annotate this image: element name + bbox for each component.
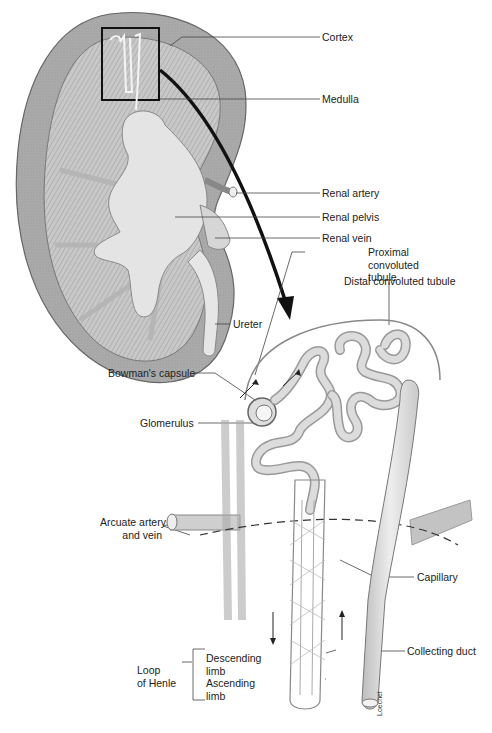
label-renal-vein: Renal vein [322, 232, 372, 245]
label-ascending-limb: Ascending limb [206, 677, 255, 702]
label-line: Arcuate artery [100, 516, 162, 529]
label-line: of Henle [137, 677, 176, 690]
label-renal-artery: Renal artery [322, 187, 379, 200]
label-distal-convoluted-tubule: Distal convoluted tubule [344, 275, 456, 288]
label-line: Proximal [368, 246, 419, 259]
loop-of-henle [290, 480, 325, 709]
label-line: Descending [206, 652, 261, 665]
label-renal-pelvis: Renal pelvis [322, 211, 379, 224]
label-line: convoluted [368, 259, 419, 272]
label-line: and vein [100, 529, 162, 542]
label-line: limb [206, 665, 261, 678]
label-cortex: Cortex [322, 31, 353, 44]
label-glomerulus: Glomerulus [140, 417, 194, 430]
label-arcuate-artery-vein: Arcuate artery and vein [100, 516, 162, 541]
kidney [16, 13, 246, 383]
label-descending-limb: Descending limb [206, 652, 261, 677]
collecting-duct-shape [362, 380, 419, 709]
kidney-nephron-illustration [0, 0, 492, 733]
label-bowmans-capsule: Bowman's capsule [108, 367, 195, 380]
label-collecting-duct: Collecting duct [407, 645, 476, 658]
label-medulla: Medulla [322, 93, 359, 106]
artist-signature: Loechel [376, 691, 383, 716]
label-line: Loop [137, 664, 176, 677]
label-capillary: Capillary [417, 571, 458, 584]
label-ureter: Ureter [233, 318, 262, 331]
label-line: Ascending [206, 677, 255, 690]
label-loop-of-henle: Loop of Henle [137, 664, 176, 689]
label-line: limb [206, 690, 255, 703]
